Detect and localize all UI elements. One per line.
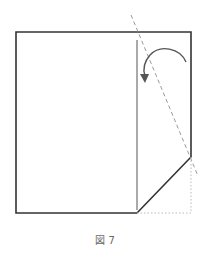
fold-diagram [0, 0, 210, 259]
fold-line [131, 15, 198, 176]
paper-outline [16, 32, 191, 213]
arrowhead-icon [140, 74, 149, 83]
figure-caption: 図 7 [0, 232, 210, 247]
